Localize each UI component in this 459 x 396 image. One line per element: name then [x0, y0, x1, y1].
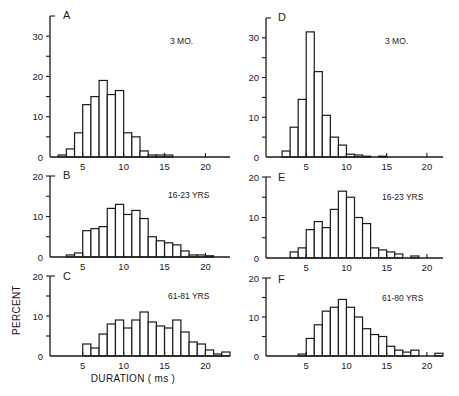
panel-letter: E — [278, 171, 285, 183]
y-tick-label: 0 — [254, 152, 259, 163]
histogram-bar — [411, 350, 419, 356]
y-tick-label: 10 — [248, 212, 259, 223]
histogram-bar — [140, 151, 148, 157]
histogram-bar — [290, 127, 298, 157]
histogram-bar — [338, 191, 346, 258]
histogram-bar — [115, 204, 123, 257]
x-tick-label: 15 — [381, 262, 392, 273]
histogram-bar — [379, 250, 387, 258]
histogram-bar — [148, 237, 156, 257]
panel-letter: A — [63, 9, 71, 21]
histogram-bar — [387, 346, 395, 356]
panel-letter: B — [63, 169, 70, 181]
histogram-bar — [148, 322, 156, 356]
x-tick-label: 5 — [80, 261, 85, 272]
histogram-bar — [132, 210, 140, 257]
panel-e: 010205101520E16-23 YRS — [248, 171, 443, 273]
y-tick-label: 0 — [38, 152, 43, 163]
histogram-bar — [282, 151, 290, 157]
x-tick-label: 10 — [118, 161, 129, 172]
y-tick-label: 20 — [32, 171, 43, 182]
histogram-bar — [355, 317, 363, 356]
histogram-bar — [306, 230, 314, 258]
histogram-bar — [165, 328, 173, 356]
histogram-bar — [314, 72, 322, 157]
x-tick-label: 20 — [422, 360, 433, 371]
panel-letter: D — [278, 11, 286, 23]
x-tick-label: 20 — [200, 360, 211, 371]
histogram-bar — [107, 95, 115, 157]
histogram-bar — [322, 311, 330, 356]
histogram-bar — [181, 332, 189, 356]
panel-letter: F — [278, 273, 285, 285]
histogram-bar — [91, 97, 99, 157]
histogram-bar — [99, 227, 107, 257]
panel-c: 010205101520C61-81 YRS — [32, 270, 230, 371]
histogram-bar — [298, 248, 306, 258]
y-tick-label: 30 — [248, 32, 259, 43]
histogram-bar — [338, 145, 346, 157]
histogram-bar — [330, 137, 338, 157]
histogram-bar — [99, 80, 107, 157]
histogram-bar — [132, 137, 140, 157]
histogram-bar — [290, 252, 298, 258]
histogram-bar — [306, 338, 314, 356]
panel-f: 010205101520F61-80 YRS — [248, 273, 443, 372]
panel-group-label: 3 MO. — [170, 36, 193, 46]
histogram-bar — [83, 344, 91, 356]
y-tick-label: 20 — [32, 271, 43, 282]
y-tick-label: 0 — [38, 252, 43, 263]
x-tick-label: 20 — [200, 161, 211, 172]
y-tick-label: 0 — [254, 253, 259, 264]
histogram-bar — [322, 115, 330, 157]
histogram-bar — [75, 133, 83, 157]
x-tick-label: 15 — [381, 360, 392, 371]
histogram-bar — [346, 307, 354, 356]
histogram-bar — [363, 224, 371, 258]
histogram-bar — [156, 326, 164, 356]
histogram-bar — [124, 214, 132, 257]
histogram-bar — [330, 209, 338, 258]
x-tick-label: 5 — [304, 360, 309, 371]
x-tick-label: 20 — [422, 262, 433, 273]
histogram-bar — [314, 222, 322, 258]
y-tick-label: 0 — [38, 351, 43, 362]
histogram-bar — [140, 312, 148, 356]
x-tick-label: 15 — [381, 161, 392, 172]
panel-d: 01020305101520D3 MO. — [248, 11, 443, 172]
histogram-bar — [66, 149, 74, 157]
histogram-bar — [124, 328, 132, 356]
histogram-bar — [306, 32, 314, 157]
x-tick-label: 10 — [118, 360, 129, 371]
histogram-bar — [346, 197, 354, 258]
panel-a: 01020305101520A3 MO. — [32, 9, 230, 172]
histogram-bar — [379, 337, 387, 357]
x-tick-label: 5 — [304, 262, 309, 273]
histogram-bar — [107, 208, 115, 257]
x-tick-label: 5 — [80, 360, 85, 371]
x-tick-label: 20 — [422, 161, 433, 172]
histogram-bar — [156, 241, 164, 257]
x-tick-label: 15 — [159, 161, 170, 172]
histogram-bar — [338, 299, 346, 356]
histogram-bar — [314, 325, 322, 356]
y-tick-label: 10 — [32, 211, 43, 222]
histogram-bar — [173, 320, 181, 356]
histogram-bar — [181, 251, 189, 257]
histogram-bar — [83, 105, 91, 157]
histogram-bar — [99, 334, 107, 356]
panels-group: 01020305101520A3 MO.010205101520B16-23 Y… — [32, 9, 443, 371]
histogram-bar — [115, 320, 123, 356]
y-tick-label: 20 — [32, 71, 43, 82]
y-tick-label: 10 — [32, 111, 43, 122]
histogram-bar — [115, 91, 123, 157]
histogram-bar — [363, 329, 371, 356]
histogram-bar — [165, 243, 173, 257]
y-tick-label: 20 — [248, 72, 259, 83]
panel-letter: C — [63, 270, 71, 282]
y-tick-label: 10 — [32, 311, 43, 322]
histogram-bar — [197, 344, 205, 356]
x-tick-label: 15 — [159, 261, 170, 272]
histogram-bar — [91, 229, 99, 257]
histogram-bar — [132, 320, 140, 356]
